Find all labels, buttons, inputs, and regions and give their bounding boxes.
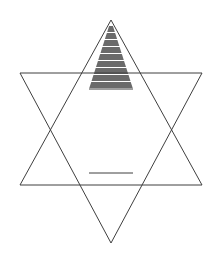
hexagram-figure [0, 0, 220, 253]
figure-canvas: Six-pointed star outline with horizontal… [0, 0, 220, 253]
